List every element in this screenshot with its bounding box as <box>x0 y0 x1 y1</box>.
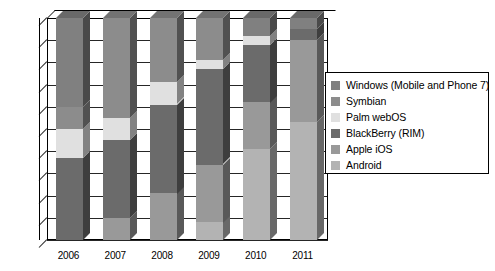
bar-segment <box>196 60 223 69</box>
bar-segment <box>243 149 270 240</box>
bar-segment <box>103 118 130 140</box>
bar-segment-side <box>270 95 277 149</box>
bar-segment <box>56 107 83 129</box>
stacked-column-chart: 0%10%20%30%40%50%60%70%80%90%100% 200620… <box>0 0 340 271</box>
bar-segment <box>150 18 177 82</box>
x-axis-tick-label: 2007 <box>92 250 138 261</box>
bar-segment-side <box>223 11 230 60</box>
bar-column <box>150 18 177 240</box>
legend-item[interactable]: Windows (Mobile and Phone 7) <box>331 78 484 93</box>
bar-segment-side <box>223 158 230 223</box>
legend-item-label: Symbian <box>346 96 386 107</box>
bar-segment <box>243 18 270 36</box>
legend-swatch-icon <box>331 97 340 106</box>
bar-segment <box>196 69 223 164</box>
chart-legend: Windows (Mobile and Phone 7)SymbianPalm … <box>325 72 489 174</box>
legend-swatch-icon <box>331 81 340 90</box>
bar-segment <box>243 36 270 45</box>
bar-column <box>290 18 317 240</box>
x-axis-tick-label: 2008 <box>139 250 185 261</box>
bar-segment <box>196 18 223 60</box>
bar-segment <box>290 40 317 122</box>
legend-item[interactable]: BlackBerry (RIM) <box>331 126 484 141</box>
legend-swatch-icon <box>331 145 340 154</box>
bar-segment-side <box>83 151 90 240</box>
bar-column <box>103 18 130 240</box>
gridline-depth <box>39 239 47 247</box>
bar-segment <box>243 102 270 149</box>
legend-item[interactable]: Apple iOS <box>331 142 484 157</box>
legend-item-label: Apple iOS <box>346 144 392 155</box>
legend-item-label: BlackBerry (RIM) <box>346 128 424 139</box>
bar-segment <box>243 45 270 103</box>
bar-segment-side <box>177 98 184 194</box>
bar-segment-side <box>177 186 184 240</box>
bar-segment <box>150 193 177 240</box>
bar-segment <box>103 218 130 240</box>
x-axis-tick-label: 2009 <box>186 250 232 261</box>
bar-segment <box>196 165 223 223</box>
bar-segment <box>56 18 83 107</box>
bar-segment <box>150 82 177 104</box>
bar-segment-side <box>270 142 277 240</box>
x-axis-tick-label: 2006 <box>45 250 91 261</box>
bar-segment-side <box>130 11 137 118</box>
bar-segment <box>56 129 83 158</box>
legend-item-label: Android <box>346 160 382 171</box>
bar-segment <box>56 158 83 240</box>
bar-segment <box>150 105 177 194</box>
legend-item[interactable]: Android <box>331 158 484 173</box>
bar-segment <box>103 18 130 118</box>
bar-segment-side <box>177 11 184 82</box>
bar-segment-side <box>83 11 90 107</box>
bar-segment <box>290 122 317 240</box>
bar-segment-side <box>223 62 230 164</box>
bar-segment <box>103 140 130 218</box>
legend-item-label: Windows (Mobile and Phone 7) <box>346 80 489 91</box>
gridline <box>47 240 328 241</box>
bar-column <box>243 18 270 240</box>
legend-item[interactable]: Palm webOS <box>331 110 484 125</box>
legend-swatch-icon <box>331 161 340 170</box>
bar-segment-side <box>270 38 277 103</box>
legend-swatch-icon <box>331 113 340 122</box>
legend-swatch-icon <box>331 129 340 138</box>
bar-segment <box>290 29 317 40</box>
bar-column <box>196 18 223 240</box>
bar-segment-side <box>130 133 137 218</box>
bar-segment-side <box>317 33 324 122</box>
bar-segment <box>290 18 317 29</box>
bar-column <box>56 18 83 240</box>
legend-item[interactable]: Symbian <box>331 94 484 109</box>
x-axis-tick-label: 2011 <box>280 250 326 261</box>
bar-segment-side <box>317 115 324 240</box>
legend-item-label: Palm webOS <box>346 112 406 123</box>
bar-segment <box>196 222 223 240</box>
x-axis-tick-label: 2010 <box>233 250 279 261</box>
